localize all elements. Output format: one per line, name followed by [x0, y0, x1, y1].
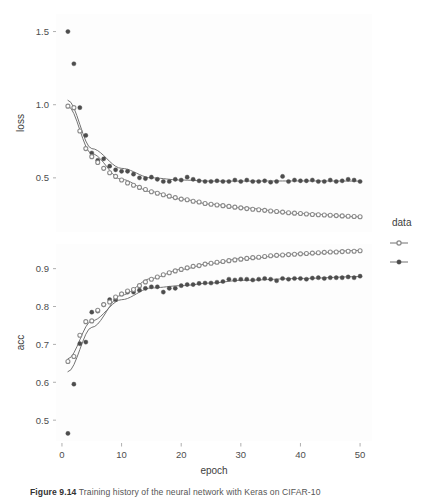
data-point — [167, 271, 171, 275]
data-point — [119, 169, 123, 173]
data-point — [257, 277, 261, 281]
y-tick-label: 1.0 — [36, 99, 49, 110]
data-point — [114, 168, 118, 172]
data-point — [269, 254, 273, 258]
data-point — [281, 253, 285, 257]
data-point — [221, 204, 225, 208]
data-point — [263, 208, 267, 212]
data-point — [251, 207, 255, 211]
panel-background-loss — [56, 14, 372, 232]
data-point — [197, 281, 201, 285]
data-point — [245, 277, 249, 281]
data-point — [257, 179, 261, 183]
figure-caption: Figure 9.14 Training history of the neur… — [30, 487, 410, 497]
data-point — [227, 179, 231, 183]
data-point — [281, 210, 285, 214]
data-point — [233, 178, 237, 182]
data-point — [239, 206, 243, 210]
data-point — [239, 277, 243, 281]
data-point — [334, 179, 338, 183]
data-point — [269, 277, 273, 281]
data-point — [215, 179, 219, 183]
data-point — [322, 276, 326, 280]
data-point — [221, 179, 225, 183]
data-point — [72, 106, 76, 110]
y-tick-label: 0.9 — [36, 263, 49, 274]
y-tick-label: 1.5 — [36, 26, 49, 37]
data-point — [227, 277, 231, 281]
data-point — [298, 212, 302, 216]
data-point — [352, 178, 356, 182]
data-point — [251, 256, 255, 260]
y-axis-title-acc: acc — [15, 335, 26, 351]
data-point — [304, 277, 308, 281]
y-tick-label: 0.6 — [36, 377, 49, 388]
data-point — [126, 181, 130, 185]
data-point — [245, 256, 249, 260]
data-point — [221, 279, 225, 283]
data-point — [126, 289, 130, 293]
caption-text: Training history of the neural network w… — [79, 487, 321, 497]
data-point — [155, 191, 159, 195]
data-point — [137, 288, 141, 292]
y-tick-label: 0.5 — [36, 172, 49, 183]
data-point — [334, 250, 338, 254]
data-point — [245, 178, 249, 182]
data-point — [167, 194, 171, 198]
data-point — [203, 201, 207, 205]
data-point — [304, 251, 308, 255]
data-point — [114, 295, 118, 299]
data-point — [203, 262, 207, 266]
x-tick-label: 30 — [236, 449, 247, 460]
data-point — [215, 203, 219, 207]
data-point — [108, 164, 112, 168]
data-point — [197, 200, 201, 204]
data-point — [280, 276, 284, 280]
data-point — [125, 169, 129, 173]
data-point — [346, 275, 350, 279]
data-point — [215, 260, 219, 264]
panel-background-acc — [56, 244, 372, 441]
data-point — [334, 276, 338, 280]
data-point — [66, 359, 70, 363]
data-point — [358, 249, 362, 253]
y-tick-label: 0.8 — [36, 301, 49, 312]
data-point — [173, 286, 177, 290]
x-tick-label: 0 — [59, 449, 64, 460]
data-point — [155, 275, 159, 279]
data-point — [263, 276, 267, 280]
data-point — [185, 266, 189, 270]
panel-loss: 0.51.01.5loss — [15, 14, 372, 232]
data-point — [316, 179, 320, 183]
data-point — [304, 179, 308, 183]
data-point — [292, 252, 296, 256]
data-point — [322, 179, 326, 183]
data-point — [340, 214, 344, 218]
data-point — [84, 147, 88, 151]
data-point — [96, 308, 100, 312]
data-point — [233, 258, 237, 262]
x-tick-label: 20 — [176, 449, 187, 460]
legend-title: data — [392, 217, 412, 228]
data-point — [316, 251, 320, 255]
data-point — [257, 208, 261, 212]
data-point — [137, 284, 141, 288]
data-point — [233, 205, 237, 209]
data-point — [358, 215, 362, 219]
data-point — [209, 202, 213, 206]
data-point — [155, 285, 159, 289]
data-point — [179, 197, 183, 201]
data-point — [185, 175, 189, 179]
data-point — [239, 179, 243, 183]
training-history-chart: 0.51.01.5loss0.50.60.70.80.9acc010203040… — [0, 0, 423, 501]
data-point — [358, 179, 362, 183]
data-point — [179, 267, 183, 271]
data-point — [197, 264, 201, 268]
data-point — [161, 290, 165, 294]
data-point — [328, 276, 332, 280]
data-point — [286, 179, 290, 183]
data-point — [191, 282, 195, 286]
data-point — [310, 251, 314, 255]
x-tick-label: 40 — [295, 449, 306, 460]
data-point — [179, 178, 183, 182]
